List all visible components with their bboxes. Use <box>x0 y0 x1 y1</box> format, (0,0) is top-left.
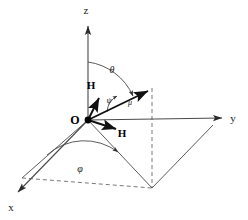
x-axis-line <box>18 120 88 192</box>
mu-vector <box>88 91 148 120</box>
z-axis-label: z <box>84 4 89 16</box>
origin-label: O <box>70 113 79 127</box>
mu-vector-line <box>88 91 148 120</box>
field-lower-label: H <box>118 127 127 139</box>
field-upper-label: H <box>87 79 96 91</box>
base-plane-dashed-edges <box>22 178 152 188</box>
mu-label: μ <box>127 98 132 107</box>
plane-edge-left-bottom-dashed <box>22 178 152 188</box>
coordinate-diagram: z y x O H H μ ψ θ φ <box>0 0 248 220</box>
origin-dot <box>85 117 92 124</box>
phi-arc-path <box>47 141 118 155</box>
phi-label: φ <box>77 163 83 174</box>
diagram-canvas: z y x O H H μ ψ θ φ <box>0 0 248 220</box>
y-axis-line <box>88 118 222 120</box>
phi-arc <box>47 141 118 155</box>
y-axis-label: y <box>230 112 236 124</box>
origin-point <box>85 117 92 124</box>
theta-label: θ <box>110 64 115 75</box>
plane-edge-right-bottom <box>152 125 213 188</box>
x-axis <box>18 120 88 192</box>
y-axis <box>88 118 222 120</box>
x-axis-label: x <box>8 201 14 213</box>
